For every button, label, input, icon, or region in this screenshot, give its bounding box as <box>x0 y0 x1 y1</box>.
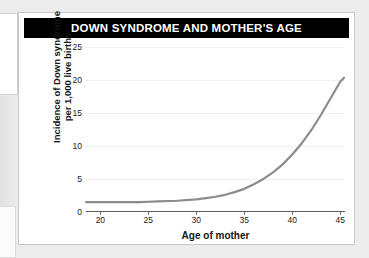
y-axis-tick-label: 10 <box>64 141 82 151</box>
plot-grid <box>86 40 345 212</box>
y-axis-tick-label: 15 <box>64 108 82 118</box>
page-margin-artifact-bottom <box>0 206 16 258</box>
y-axis-tick-label: 5 <box>64 174 82 184</box>
x-axis-tick-label: 40 <box>281 215 303 225</box>
chart-title: DOWN SYNDROME AND MOTHER'S AGE <box>71 22 302 34</box>
y-axis-tick-labels: 0510152025 <box>62 40 82 212</box>
x-axis-tick-labels: 202530354045 <box>86 212 345 226</box>
x-axis-tick-label: 25 <box>137 215 159 225</box>
page-margin-artifact-top <box>0 13 18 95</box>
plot-area: Incidence of Down syndrome per 1,000 liv… <box>24 40 349 239</box>
y-axis-tick-label: 20 <box>64 75 82 85</box>
x-axis-tick-label: 30 <box>185 215 207 225</box>
x-axis-tick-label: 35 <box>233 215 255 225</box>
page-margin-shadow <box>0 96 18 206</box>
x-axis-title: Age of mother <box>86 230 345 241</box>
x-axis-tick-label: 45 <box>329 215 351 225</box>
data-curve <box>86 40 345 212</box>
y-axis-tick-label: 25 <box>64 42 82 52</box>
chart-card: DOWN SYNDROME AND MOTHER'S AGE Incidence… <box>18 12 355 245</box>
y-axis-title-line-1: Incidence of Down syndrome <box>51 11 63 143</box>
screenshot-root: DOWN SYNDROME AND MOTHER'S AGE Incidence… <box>0 0 369 258</box>
x-axis-tick-label: 20 <box>89 215 111 225</box>
y-axis-tick-label: 0 <box>64 207 82 217</box>
